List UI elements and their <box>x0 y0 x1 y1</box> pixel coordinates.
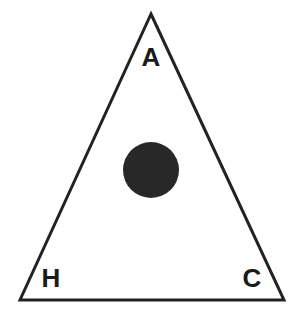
vertex-label-apex: A <box>142 44 161 70</box>
figure-canvas: A H C <box>0 0 292 321</box>
filled-circle <box>123 142 179 198</box>
vertex-label-bottom-left: H <box>42 265 61 291</box>
vertex-label-bottom-right: C <box>243 265 262 291</box>
